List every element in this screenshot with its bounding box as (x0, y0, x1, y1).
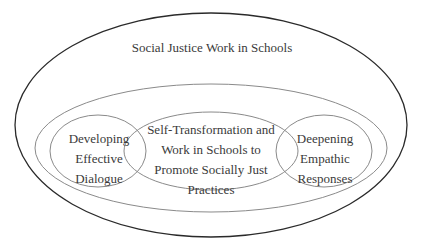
center-ellipse-label: Self-Transformation and Work in Schools … (130, 120, 292, 200)
right-circle-label: Deepening Empathic Responses (284, 129, 366, 189)
outer-label: Social Justice Work in Schools (0, 38, 424, 58)
left-circle-label: Developing Effective Dialogue (58, 129, 140, 189)
social-justice-diagram: Social Justice Work in Schools Developin… (0, 0, 424, 241)
